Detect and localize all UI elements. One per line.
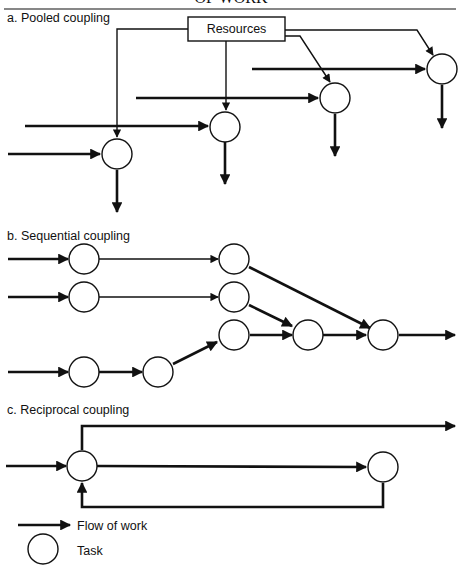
task-node — [219, 244, 249, 274]
flow-arrow — [249, 267, 370, 328]
page-header: OF WORK — [4, 0, 456, 9]
task-node — [102, 139, 132, 169]
resource-link-1 — [117, 29, 188, 137]
resource-link-4 — [285, 30, 433, 55]
reciprocal-coupling-section: c. Reciprocal coupling — [6, 403, 455, 507]
task-node — [67, 451, 97, 481]
task-node — [219, 320, 249, 350]
pooled-coupling-label: a. Pooled coupling — [7, 11, 110, 25]
pooled-coupling-section: a. Pooled coupling Resources — [7, 11, 457, 212]
legend-flow-label: Flow of work — [77, 519, 148, 533]
legend: Flow of work Task — [18, 519, 148, 564]
task-node — [368, 320, 398, 350]
sequential-coupling-section: b. Sequential coupling — [7, 229, 455, 387]
resources-label: Resources — [207, 22, 267, 36]
task-node — [69, 357, 99, 387]
task-circle-icon — [28, 534, 58, 564]
task-node — [293, 320, 323, 350]
coupling-diagram: OF WORK a. Pooled coupling Resources b. … — [0, 0, 462, 565]
task-node — [69, 282, 99, 312]
task-node — [143, 357, 173, 387]
task-node — [368, 452, 398, 482]
task-node — [219, 282, 249, 312]
header-title-fragment: OF WORK — [194, 0, 267, 6]
task-node — [320, 83, 350, 113]
legend-task-label: Task — [77, 544, 103, 558]
flow-arrow — [82, 483, 383, 507]
task-node — [210, 112, 240, 142]
resource-link-3 — [285, 36, 330, 82]
sequential-coupling-label: b. Sequential coupling — [7, 229, 130, 243]
flow-arrow — [249, 305, 292, 326]
flow-arrow — [97, 466, 366, 467]
flow-arrow — [82, 426, 455, 450]
task-node — [69, 244, 99, 274]
task-node — [427, 54, 457, 84]
reciprocal-coupling-label: c. Reciprocal coupling — [7, 403, 129, 417]
flow-arrow — [173, 342, 217, 364]
